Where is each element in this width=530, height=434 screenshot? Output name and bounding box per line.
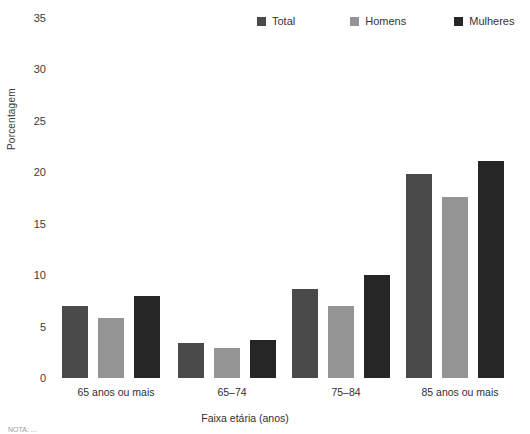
bar-group-bars xyxy=(176,18,288,378)
x-axis-category-label: 65–74 xyxy=(217,386,246,398)
y-axis-tick-label: 20 xyxy=(24,166,46,178)
x-axis-category-label: 65 anos ou mais xyxy=(77,386,154,398)
chart-footnote: NOTA: ... xyxy=(8,425,308,434)
bar[interactable] xyxy=(250,340,276,378)
bar-group-bars xyxy=(60,18,172,378)
bar[interactable] xyxy=(62,306,88,378)
y-axis-tick-label: 15 xyxy=(24,218,46,230)
bar[interactable] xyxy=(98,318,124,378)
bar[interactable] xyxy=(442,197,468,378)
bar[interactable] xyxy=(406,174,432,378)
bar-groups: 65 anos ou mais65–7475–8485 anos ou mais xyxy=(56,18,524,378)
bar[interactable] xyxy=(328,306,354,378)
x-axis-title: Faixa etária (anos) xyxy=(201,412,289,424)
bar[interactable] xyxy=(364,275,390,378)
bar-group: 65–74 xyxy=(176,18,288,378)
y-axis-title: Porcentagem xyxy=(6,88,17,150)
y-axis-tick-label: 5 xyxy=(24,321,46,333)
plot-area: 05101520253035 65 anos ou mais65–7475–84… xyxy=(56,18,524,378)
bar-group: 75–84 xyxy=(290,18,402,378)
x-axis-category-label: 75–84 xyxy=(331,386,360,398)
x-axis-category-label: 85 anos ou mais xyxy=(421,386,498,398)
bar-group: 85 anos ou mais xyxy=(404,18,516,378)
bar[interactable] xyxy=(478,161,504,378)
bar-group-bars xyxy=(404,18,516,378)
bar-group-bars xyxy=(290,18,402,378)
bar-group: 65 anos ou mais xyxy=(60,18,172,378)
y-axis-tick-label: 30 xyxy=(24,63,46,75)
bar[interactable] xyxy=(292,289,318,378)
y-axis-tick-label: 25 xyxy=(24,115,46,127)
bar[interactable] xyxy=(178,343,204,378)
y-axis-tick-label: 10 xyxy=(24,269,46,281)
bar[interactable] xyxy=(134,296,160,378)
y-axis-tick-label: 35 xyxy=(24,12,46,24)
y-axis-tick-label: 0 xyxy=(24,372,46,384)
bar[interactable] xyxy=(214,348,240,378)
